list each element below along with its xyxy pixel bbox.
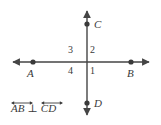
double-arrow-overbar-ab-icon: [11, 101, 33, 105]
point-c-label: C: [94, 19, 101, 30]
caption-term-cd-wrapper: CD: [41, 99, 56, 114]
double-arrow-overbar-cd-icon: [41, 101, 63, 105]
geometry-figure: A B C D 3 2 4 1 AB ⊥ CD: [0, 0, 161, 125]
point-b-dot: [128, 59, 133, 64]
point-c-dot: [84, 21, 89, 26]
point-d-dot: [84, 100, 89, 105]
caption-term-ab-wrapper: AB: [11, 99, 24, 114]
quadrant-label-lower-right: 1: [90, 66, 95, 76]
point-a-label: A: [27, 68, 34, 79]
quadrant-label-upper-left: 3: [68, 45, 73, 55]
quadrant-label-lower-left: 4: [68, 66, 73, 76]
quadrant-label-upper-right: 2: [90, 45, 95, 55]
point-b-label: B: [127, 68, 134, 79]
point-a-dot: [30, 59, 35, 64]
point-d-label: D: [94, 98, 102, 109]
perpendicularity-caption: AB ⊥ CD: [11, 99, 56, 114]
